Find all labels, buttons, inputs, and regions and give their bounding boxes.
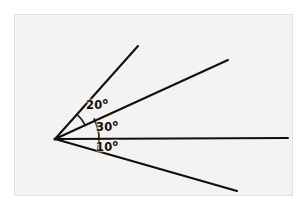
- angle-label-10deg: 10o: [96, 140, 118, 153]
- figure-panel: [15, 15, 293, 196]
- angle-label-20deg: 20o: [86, 98, 108, 111]
- degree-symbol-icon-20: o: [102, 97, 108, 106]
- degree-symbol-icon-10: o: [112, 139, 118, 148]
- degree-symbol-icon-30: o: [112, 119, 118, 128]
- common-vertex: [53, 137, 56, 140]
- angle-value-10: 10: [96, 140, 112, 154]
- angle-figure: 20o 30o 10o: [0, 0, 305, 206]
- figure-canvas: [0, 0, 305, 206]
- ray-horizontal: [55, 138, 288, 139]
- angle-value-20: 20: [86, 98, 102, 112]
- angle-label-30deg: 30o: [96, 120, 118, 133]
- angle-value-30: 30: [96, 120, 112, 134]
